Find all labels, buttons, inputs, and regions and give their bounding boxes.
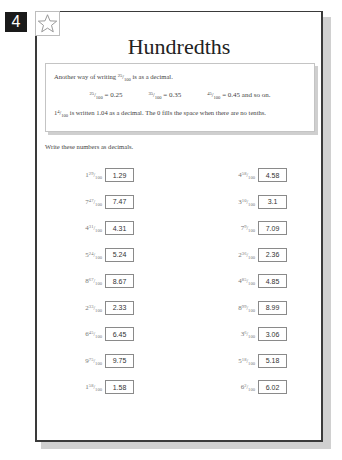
- answer-field[interactable]: 1.58: [105, 380, 134, 394]
- page-title: Hundredths: [35, 34, 323, 60]
- answer-field[interactable]: 4.58: [258, 168, 287, 182]
- question-row: 747/1007.47: [69, 195, 134, 209]
- mixed-number: 129/100: [69, 171, 102, 179]
- mixed-number: 236/100: [222, 251, 255, 259]
- question-row: 867/1008.67: [69, 274, 134, 288]
- answer-field[interactable]: 9.75: [105, 354, 134, 368]
- star-icon: [35, 11, 60, 36]
- question-row: 524/1005.24: [69, 248, 134, 262]
- info-examples: 25/100 = 0.25 35/100 = 0.35 45/100 = 0.4…: [46, 91, 314, 99]
- mixed-number: 645/100: [69, 330, 102, 338]
- mixed-number: 233/100: [69, 304, 102, 312]
- answer-field[interactable]: 6.02: [258, 380, 287, 394]
- answer-field[interactable]: 6.45: [105, 327, 134, 341]
- answer-field[interactable]: 8.67: [105, 274, 134, 288]
- question-row: 129/1001.29: [69, 168, 134, 182]
- mixed-number: 79/100: [222, 224, 255, 232]
- answer-field[interactable]: 1.29: [105, 168, 134, 182]
- question-row: 236/1002.36: [222, 248, 287, 262]
- mixed-number: 310/100: [222, 198, 255, 206]
- answer-field[interactable]: 8.99: [258, 301, 287, 315]
- answer-field[interactable]: 7.09: [258, 221, 287, 235]
- question-row: 310/1003.1: [222, 195, 287, 209]
- question-row: 518/1005.18: [222, 354, 287, 368]
- question-row: 899/1008.99: [222, 301, 287, 315]
- answer-field[interactable]: 5.18: [258, 354, 287, 368]
- answer-field[interactable]: 4.31: [105, 221, 134, 235]
- question-row: 458/1004.58: [222, 168, 287, 182]
- mixed-number: 485/100: [222, 277, 255, 285]
- mixed-number: 867/100: [69, 277, 102, 285]
- answer-field[interactable]: 3.06: [258, 327, 287, 341]
- page-number-badge: 4: [5, 12, 27, 32]
- example-item: 45/100 = 0.45 and so on.: [207, 91, 270, 99]
- mixed-number: 524/100: [69, 251, 102, 259]
- fraction: 14/100: [54, 109, 68, 116]
- example-item: 25/100 = 0.25: [90, 91, 123, 99]
- answer-field[interactable]: 2.33: [105, 301, 134, 315]
- info-intro-text: Another way of writing 25/100 is as a de…: [54, 73, 173, 80]
- answer-field[interactable]: 2.36: [258, 248, 287, 262]
- question-row: 36/1003.06: [222, 327, 287, 341]
- question-row: 645/1006.45: [69, 327, 134, 341]
- info-box: Another way of writing 25/100 is as a de…: [45, 63, 315, 132]
- question-row: 79/1007.09: [222, 221, 287, 235]
- question-row: 431/1004.31: [69, 221, 134, 235]
- mixed-number: 158/100: [69, 383, 102, 391]
- example-item: 35/100 = 0.35: [148, 91, 181, 99]
- answer-field[interactable]: 5.24: [105, 248, 134, 262]
- mixed-number: 431/100: [69, 224, 102, 232]
- mixed-number: 518/100: [222, 357, 255, 365]
- fraction: 25/100: [118, 73, 131, 80]
- answer-field[interactable]: 7.47: [105, 195, 134, 209]
- mixed-number: 899/100: [222, 304, 255, 312]
- mixed-number: 975/100: [69, 357, 102, 365]
- info-explanation-text: 14/100 is written 1.04 as a decimal. The…: [54, 109, 266, 116]
- question-row: 158/1001.58: [69, 380, 134, 394]
- mixed-number: 62/100: [222, 383, 255, 391]
- mixed-number: 747/100: [69, 198, 102, 206]
- answer-field[interactable]: 4.85: [258, 274, 287, 288]
- answer-field[interactable]: 3.1: [258, 195, 287, 209]
- mixed-number: 458/100: [222, 171, 255, 179]
- question-row: 62/1006.02: [222, 380, 287, 394]
- star-outline-icon: [37, 13, 58, 34]
- question-row: 233/1002.33: [69, 301, 134, 315]
- question-row: 485/1004.85: [222, 274, 287, 288]
- instruction-text: Write these numbers as decimals.: [45, 143, 133, 150]
- question-row: 975/1009.75: [69, 354, 134, 368]
- mixed-number: 36/100: [222, 330, 255, 338]
